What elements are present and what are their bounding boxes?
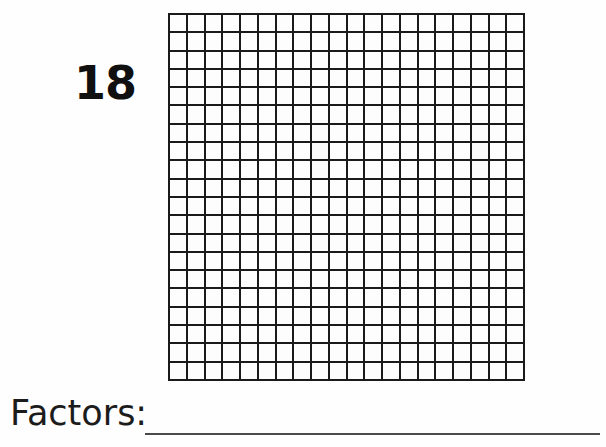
grid-cell[interactable] <box>259 143 275 159</box>
grid-cell[interactable] <box>259 216 275 232</box>
grid-cell[interactable] <box>490 326 506 342</box>
grid-cell[interactable] <box>188 308 204 324</box>
grid-cell[interactable] <box>419 15 435 31</box>
grid-cell[interactable] <box>330 52 346 68</box>
grid-cell[interactable] <box>223 180 239 196</box>
grid-cell[interactable] <box>206 363 222 379</box>
grid-cell[interactable] <box>365 180 381 196</box>
grid-cell[interactable] <box>170 161 186 177</box>
grid-cell[interactable] <box>383 308 399 324</box>
grid-cell[interactable] <box>259 271 275 287</box>
grid-cell[interactable] <box>490 88 506 104</box>
grid-cell[interactable] <box>472 198 488 214</box>
grid-cell[interactable] <box>259 161 275 177</box>
grid-cell[interactable] <box>259 289 275 305</box>
grid-cell[interactable] <box>507 344 523 360</box>
grid-cell[interactable] <box>454 161 470 177</box>
grid-cell[interactable] <box>401 143 417 159</box>
grid-cell[interactable] <box>472 161 488 177</box>
grid-cell[interactable] <box>454 289 470 305</box>
grid-cell[interactable] <box>454 198 470 214</box>
grid-cell[interactable] <box>436 253 452 269</box>
grid-cell[interactable] <box>312 289 328 305</box>
grid-cell[interactable] <box>241 363 257 379</box>
grid-cell[interactable] <box>277 70 293 86</box>
grid-cell[interactable] <box>365 88 381 104</box>
grid-cell[interactable] <box>170 33 186 49</box>
grid-cell[interactable] <box>294 143 310 159</box>
grid-cell[interactable] <box>223 15 239 31</box>
grid-cell[interactable] <box>436 33 452 49</box>
grid-cell[interactable] <box>383 180 399 196</box>
grid-cell[interactable] <box>312 52 328 68</box>
grid-cell[interactable] <box>348 15 364 31</box>
grid-cell[interactable] <box>490 198 506 214</box>
grid-cell[interactable] <box>312 143 328 159</box>
grid-cell[interactable] <box>330 271 346 287</box>
grid-cell[interactable] <box>454 253 470 269</box>
array-grid[interactable] <box>168 13 525 381</box>
factors-answer-line[interactable] <box>145 433 600 435</box>
grid-cell[interactable] <box>401 253 417 269</box>
grid-cell[interactable] <box>188 70 204 86</box>
grid-cell[interactable] <box>419 253 435 269</box>
grid-cell[interactable] <box>223 161 239 177</box>
grid-cell[interactable] <box>383 33 399 49</box>
grid-cell[interactable] <box>312 70 328 86</box>
grid-cell[interactable] <box>206 235 222 251</box>
grid-cell[interactable] <box>383 198 399 214</box>
grid-cell[interactable] <box>294 216 310 232</box>
grid-cell[interactable] <box>188 344 204 360</box>
grid-cell[interactable] <box>348 216 364 232</box>
grid-cell[interactable] <box>383 70 399 86</box>
grid-cell[interactable] <box>436 198 452 214</box>
grid-cell[interactable] <box>383 216 399 232</box>
grid-cell[interactable] <box>294 235 310 251</box>
grid-cell[interactable] <box>348 344 364 360</box>
grid-cell[interactable] <box>170 253 186 269</box>
grid-cell[interactable] <box>277 161 293 177</box>
grid-cell[interactable] <box>490 52 506 68</box>
grid-cell[interactable] <box>277 253 293 269</box>
grid-cell[interactable] <box>401 33 417 49</box>
grid-cell[interactable] <box>170 198 186 214</box>
grid-cell[interactable] <box>419 88 435 104</box>
grid-cell[interactable] <box>277 216 293 232</box>
grid-cell[interactable] <box>223 289 239 305</box>
grid-cell[interactable] <box>223 271 239 287</box>
grid-cell[interactable] <box>507 308 523 324</box>
grid-cell[interactable] <box>436 161 452 177</box>
grid-cell[interactable] <box>419 344 435 360</box>
grid-cell[interactable] <box>294 308 310 324</box>
grid-cell[interactable] <box>170 15 186 31</box>
grid-cell[interactable] <box>472 70 488 86</box>
grid-cell[interactable] <box>277 363 293 379</box>
grid-cell[interactable] <box>365 143 381 159</box>
grid-cell[interactable] <box>490 143 506 159</box>
grid-cell[interactable] <box>383 106 399 122</box>
grid-cell[interactable] <box>312 198 328 214</box>
grid-cell[interactable] <box>454 143 470 159</box>
grid-cell[interactable] <box>419 363 435 379</box>
grid-cell[interactable] <box>170 289 186 305</box>
grid-cell[interactable] <box>206 70 222 86</box>
grid-cell[interactable] <box>348 33 364 49</box>
grid-cell[interactable] <box>206 15 222 31</box>
grid-cell[interactable] <box>241 15 257 31</box>
grid-cell[interactable] <box>436 308 452 324</box>
grid-cell[interactable] <box>206 253 222 269</box>
grid-cell[interactable] <box>490 253 506 269</box>
grid-cell[interactable] <box>419 326 435 342</box>
grid-cell[interactable] <box>188 326 204 342</box>
grid-cell[interactable] <box>472 216 488 232</box>
grid-cell[interactable] <box>454 88 470 104</box>
grid-cell[interactable] <box>472 88 488 104</box>
grid-cell[interactable] <box>223 88 239 104</box>
grid-cell[interactable] <box>436 363 452 379</box>
grid-cell[interactable] <box>330 15 346 31</box>
grid-cell[interactable] <box>312 344 328 360</box>
grid-cell[interactable] <box>401 88 417 104</box>
grid-cell[interactable] <box>419 235 435 251</box>
grid-cell[interactable] <box>241 88 257 104</box>
grid-cell[interactable] <box>348 271 364 287</box>
